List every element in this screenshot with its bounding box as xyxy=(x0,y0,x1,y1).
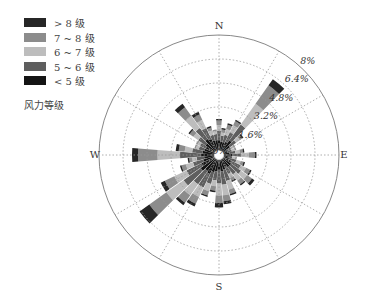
wind-sector-segment xyxy=(210,185,216,190)
wind-sector-segment xyxy=(213,131,217,135)
wind-rose-plot: N E S W 0%1.6%3.2%4.8%6.4%8% xyxy=(0,0,367,304)
wind-sector-segment xyxy=(185,146,193,152)
wind-sector-segment xyxy=(217,131,221,140)
grid-spoke xyxy=(219,155,323,215)
radial-tick-label: 3.2% xyxy=(254,110,278,121)
wind-sector-segment xyxy=(192,157,197,162)
wind-sector-segment xyxy=(223,194,231,201)
radial-tick-label: 6.4% xyxy=(285,73,309,84)
radial-tick-label: 0% xyxy=(212,145,227,156)
radial-tick-label: 8% xyxy=(300,55,315,66)
wind-sector-segment xyxy=(221,133,225,137)
south-label: S xyxy=(216,281,223,292)
wind-sector-segment xyxy=(232,156,235,159)
west-label: W xyxy=(90,149,101,160)
north-label: N xyxy=(215,20,224,31)
wind-rose-bars xyxy=(132,79,284,223)
east-label: E xyxy=(340,149,347,160)
radial-tick-label: 4.8% xyxy=(268,92,293,103)
grid-spoke xyxy=(159,51,219,155)
radial-tick-label: 1.6% xyxy=(238,129,262,140)
wind-sector-segment xyxy=(179,145,186,152)
